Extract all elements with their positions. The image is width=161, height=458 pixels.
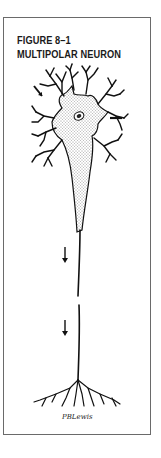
cell-body xyxy=(52,86,108,232)
axon-arrow-upper-icon xyxy=(62,247,68,263)
axon xyxy=(78,230,80,380)
axon-arrow-lower-icon xyxy=(62,320,68,336)
artist-signature: PBLewis xyxy=(62,413,92,421)
dendrite-arrow-icon xyxy=(34,86,42,96)
axon-terminals xyxy=(34,380,120,406)
neuron-illustration xyxy=(0,0,161,458)
